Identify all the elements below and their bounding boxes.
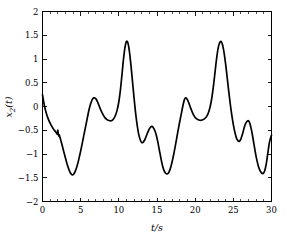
y-tick-label: 0 [33, 102, 38, 112]
y-tick-label: −2 [26, 197, 39, 207]
y-tick-label: 1 [33, 54, 38, 64]
y-tick-label: −1 [26, 149, 39, 159]
x-tick-label: 25 [228, 205, 239, 215]
y-tick-label: 1.5 [25, 30, 39, 40]
y-tick-label: −1.5 [18, 173, 39, 183]
x-tick-label: 30 [266, 205, 277, 215]
x-axis-title-text: t/s [151, 222, 163, 233]
chart-svg: 051015202530 −2−1.5−1−0.500.511.52 t/s x… [0, 0, 287, 240]
chart-figure: 051015202530 −2−1.5−1−0.500.511.52 t/s x… [0, 0, 287, 240]
x-tick-label: 0 [40, 205, 45, 215]
x-tick-label: 5 [78, 205, 83, 215]
x-tick-label: 10 [113, 205, 124, 215]
svg-text:t/s: t/s [151, 222, 163, 233]
y-tick-label: 2 [33, 7, 38, 17]
x-tick-label: 15 [152, 205, 163, 215]
x-axis-title: t/s [151, 222, 163, 233]
y-tick-label: −0.5 [18, 125, 39, 135]
x-tick-label: 20 [190, 205, 201, 215]
y-tick-label: 0.5 [25, 78, 39, 88]
